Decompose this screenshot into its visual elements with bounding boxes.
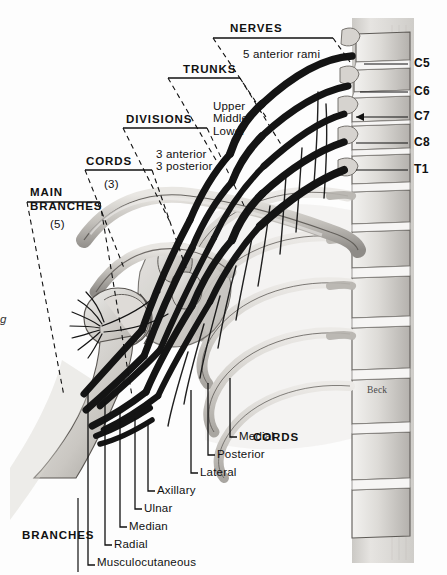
bracket-label-trunks: TRUNKS — [183, 63, 236, 75]
leg-main-branches-left — [27, 202, 64, 396]
trunk-lower: Lower — [213, 125, 245, 137]
bracket-label-nerves: NERVES — [230, 22, 282, 34]
bracket-sublabel-nerves: 5 anterior rami — [243, 48, 320, 60]
branch-label-axillary: Axillary — [157, 484, 196, 496]
cord-label-medial: Medial — [239, 430, 274, 442]
leg-divisions-right — [207, 128, 248, 214]
bracket-count-cords: (3) — [104, 178, 119, 190]
divisions-anterior: 3 anterior — [156, 148, 207, 160]
cord-label-posterior: Posterior — [217, 448, 265, 460]
artist-signature: Beck — [367, 385, 387, 395]
leg-nerves-right — [333, 38, 350, 62]
trunk-middle: Middle — [213, 112, 248, 124]
vertebra-label-c8: C8 — [414, 136, 430, 149]
leg-divisions-left — [123, 128, 170, 222]
branches-group-label: BRANCHES — [22, 529, 94, 541]
bracket-legs — [27, 38, 350, 396]
c7-arrow-tick — [356, 113, 364, 121]
cord-label-lateral: Lateral — [200, 466, 237, 478]
bracket-label-main-branches: MAINBRANCHES — [30, 185, 102, 214]
branch-label-median: Median — [129, 520, 168, 532]
cropped-edge-text-fragment: g — [0, 313, 7, 325]
annotation-lines — [0, 0, 447, 575]
bracket-label-cords: CORDS — [86, 155, 132, 167]
branch-label-ulnar: Ulnar — [144, 502, 172, 514]
brachial-plexus-figure: NERVES 5 anterior rami TRUNKS Upper Midd… — [0, 0, 447, 575]
vertebra-label-t1: T1 — [414, 163, 429, 176]
bracket-count-main-branches: (5) — [50, 218, 65, 230]
vertebra-label-c5: C5 — [414, 57, 430, 70]
vertebra-label-c6: C6 — [414, 85, 430, 98]
branch-label-radial: Radial — [114, 538, 148, 550]
branch-label-musculocutaneous: Musculocutaneous — [97, 556, 196, 568]
bracket-sublabel-divisions: 3 anterior 3 posterior — [156, 148, 213, 173]
leg-main-branches-right — [100, 202, 132, 396]
bracket-sublabel-trunks: Upper Middle Lower — [213, 100, 248, 137]
divisions-posterior: 3 posterior — [156, 160, 213, 172]
bracket-label-divisions: DIVISIONS — [126, 113, 192, 125]
vertebra-label-c7: C7 — [414, 110, 430, 123]
trunk-upper: Upper — [213, 100, 245, 112]
